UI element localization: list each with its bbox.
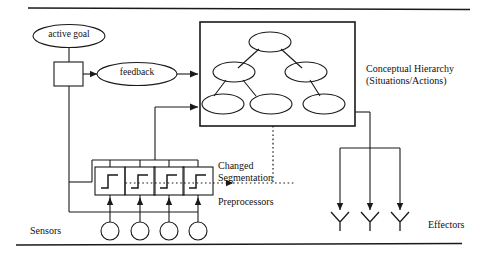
tree-node-right	[285, 62, 327, 82]
tree-node-leaf-2	[250, 94, 292, 114]
changed-segmentation-label-line2: Segmentation	[218, 172, 273, 183]
tree-node-left	[213, 62, 255, 82]
active-goal-label: active goal	[43, 29, 95, 40]
sensor-circle-3	[160, 222, 178, 240]
tree-node-root	[249, 32, 291, 52]
sigmoid-icon-1	[101, 175, 118, 188]
effector-glyph-1	[331, 212, 349, 231]
conceptual-hierarchy-label-line2: (Situations/Actions)	[366, 75, 447, 86]
sensor-circle-1	[101, 222, 119, 240]
effectors-label: Effectors	[428, 219, 464, 230]
preprocessor-box-3	[154, 167, 184, 195]
tree-node-leaf-1	[202, 94, 244, 114]
conceptual-hierarchy-label-line1: Conceptual Hierarchy	[366, 63, 454, 74]
rule-top	[28, 8, 470, 10]
feedback-label: feedback	[111, 67, 163, 78]
sigmoid-icon-4	[189, 175, 206, 188]
tree-edge-right-r	[310, 80, 320, 96]
sensor-circle-4	[189, 222, 207, 240]
changed-segmentation-label-line1: Changed	[218, 160, 254, 171]
preprocessors-label: Preprocessors	[218, 196, 274, 207]
tree-edge-left-r	[243, 80, 256, 96]
preprocessor-box-1	[95, 167, 125, 195]
effector-glyph-3	[391, 212, 409, 231]
conceptual-hierarchy-box	[200, 22, 355, 126]
tree-node-leaf-3	[303, 94, 345, 114]
sigmoid-icon-2	[131, 175, 148, 188]
preprocessor-box-4	[183, 167, 213, 195]
sensor-circle-2	[131, 222, 149, 240]
effector-glyph-2	[361, 212, 379, 231]
sensors-label: Sensors	[30, 225, 61, 236]
rule-bottom	[16, 244, 462, 246]
preprocessor-box-2	[125, 167, 155, 195]
sigmoid-icon-3	[160, 175, 177, 188]
junction-square	[54, 62, 83, 86]
